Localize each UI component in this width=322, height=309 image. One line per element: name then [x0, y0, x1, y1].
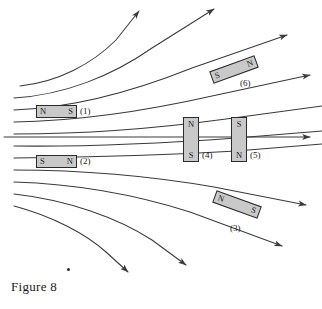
field-line-9: [14, 182, 282, 246]
magnet-6-pole-left: S: [214, 71, 221, 81]
magnet-2-label: (2): [80, 157, 91, 166]
magnet-5-pole-bottom: N: [236, 151, 242, 160]
field-line-3: [14, 35, 287, 110]
magnet-3-pole-left: N: [217, 194, 226, 204]
magnet-4[interactable]: N S: [183, 117, 199, 162]
magnet-6-pole-right: N: [246, 59, 255, 69]
magnet-2-pole-left: S: [40, 157, 45, 166]
magnet-1-pole-right: S: [68, 107, 73, 116]
magnet-3-pole-right: S: [250, 206, 257, 216]
magnet-5[interactable]: S N: [231, 117, 247, 162]
magnet-1-pole-left: N: [40, 107, 46, 116]
magnet-1-label: (1): [80, 107, 91, 116]
field-line-8: [14, 170, 306, 205]
magnet-4-pole-bottom: S: [189, 151, 194, 160]
stray-dot-mark: [67, 268, 70, 271]
field-line-10: [14, 194, 186, 265]
magnet-5-pole-top: S: [237, 120, 242, 129]
field-line-2: [14, 9, 214, 98]
magnet-5-label: (5): [250, 151, 261, 160]
magnet-4-label: (4): [202, 151, 213, 160]
field-line-1: [20, 11, 139, 86]
figure-8: N S (1) S N (2) N S (3) N S (4) S N (5) …: [0, 0, 322, 309]
figure-caption: Figure 8: [11, 279, 57, 295]
magnet-3-label: (3): [230, 224, 241, 233]
magnet-2-pole-right: N: [67, 157, 73, 166]
magnet-1[interactable]: N S: [36, 105, 77, 118]
field-line-11: [14, 206, 128, 272]
magnet-2[interactable]: S N: [36, 155, 77, 168]
magnet-6-label: (6): [240, 79, 251, 88]
magnet-4-pole-top: N: [188, 120, 194, 129]
